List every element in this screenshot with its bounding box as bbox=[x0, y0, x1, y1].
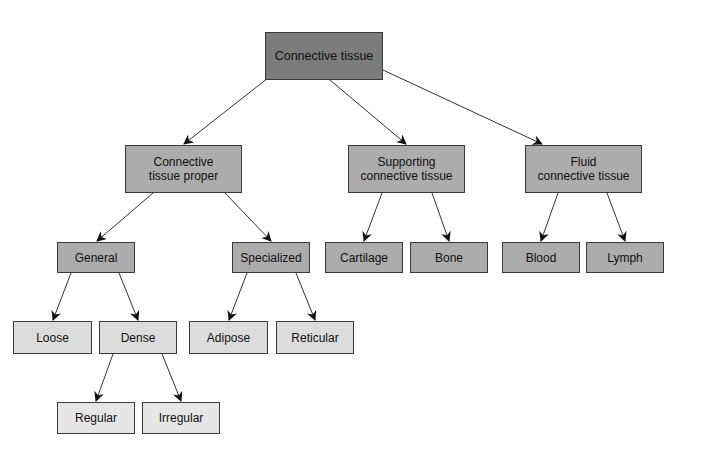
node-label: Bone bbox=[435, 251, 463, 265]
node-label: Irregular bbox=[159, 411, 204, 425]
node-loose: Loose bbox=[13, 321, 92, 354]
node-label: General bbox=[75, 251, 118, 265]
node-blood: Blood bbox=[502, 242, 580, 273]
node-label: Lymph bbox=[607, 251, 643, 265]
node-bone: Bone bbox=[410, 242, 488, 273]
arrow-root-to-proper bbox=[184, 78, 268, 144]
node-lymph: Lymph bbox=[586, 242, 664, 273]
node-label: Regular bbox=[75, 411, 117, 425]
node-label: Adipose bbox=[207, 331, 250, 345]
arrow-specialized-to-adipose bbox=[229, 273, 247, 320]
arrow-fluid-to-lymph bbox=[607, 193, 625, 241]
node-label: Supporting connective tissue bbox=[360, 155, 452, 183]
node-label: Blood bbox=[526, 251, 557, 265]
arrow-general-to-dense bbox=[119, 273, 138, 320]
arrow-supporting-to-cartilage bbox=[364, 193, 382, 241]
node-regular: Regular bbox=[57, 402, 135, 434]
arrow-supporting-to-bone bbox=[432, 193, 449, 241]
node-adipose: Adipose bbox=[189, 321, 268, 354]
node-fluid-connective-tissue: Fluid connective tissue bbox=[525, 145, 642, 193]
node-label: Fluid connective tissue bbox=[537, 155, 629, 183]
node-label: Specialized bbox=[240, 251, 301, 265]
node-dense: Dense bbox=[99, 321, 177, 354]
arrow-fluid-to-blood bbox=[541, 193, 558, 241]
node-cartilage: Cartilage bbox=[325, 242, 403, 273]
node-label: Reticular bbox=[291, 331, 338, 345]
arrow-root-to-fluid bbox=[383, 70, 542, 144]
arrow-proper-to-general bbox=[97, 193, 153, 241]
node-label: Connective tissue proper bbox=[149, 155, 218, 183]
arrow-proper-to-specialized bbox=[225, 193, 271, 241]
node-reticular: Reticular bbox=[276, 321, 354, 354]
node-label: Cartilage bbox=[340, 251, 388, 265]
node-label: Dense bbox=[121, 331, 156, 345]
arrow-dense-to-regular bbox=[96, 354, 113, 401]
arrow-dense-to-irregular bbox=[162, 354, 181, 401]
node-connective-tissue: Connective tissue bbox=[265, 32, 383, 80]
node-label: Loose bbox=[36, 331, 69, 345]
node-general: General bbox=[57, 242, 135, 273]
arrow-specialized-to-reticular bbox=[296, 273, 315, 320]
arrow-root-to-supporting bbox=[330, 80, 406, 144]
node-specialized: Specialized bbox=[232, 242, 310, 273]
node-supporting-connective-tissue: Supporting connective tissue bbox=[348, 145, 465, 193]
node-connective-tissue-proper: Connective tissue proper bbox=[125, 145, 242, 193]
node-irregular: Irregular bbox=[142, 402, 220, 434]
arrow-general-to-loose bbox=[53, 273, 71, 320]
node-label: Connective tissue bbox=[275, 49, 374, 63]
